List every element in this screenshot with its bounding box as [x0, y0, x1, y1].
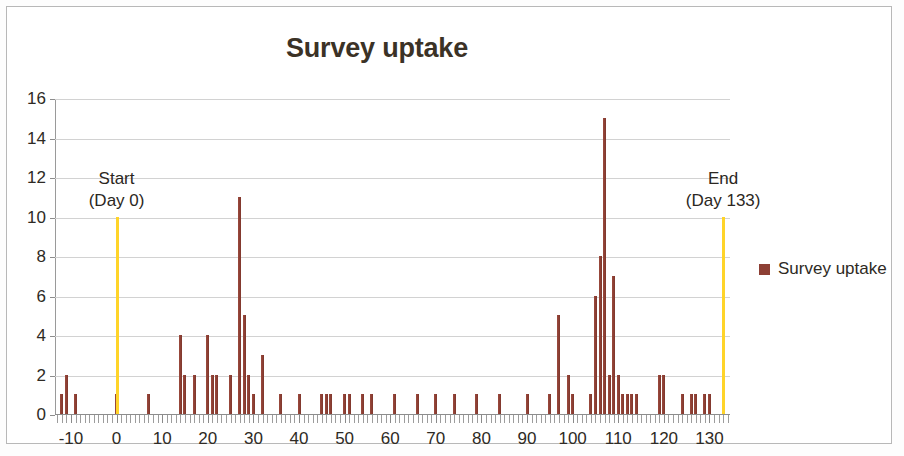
x-tick-mark-minor — [263, 415, 264, 423]
x-tick-mark-minor — [167, 415, 168, 423]
y-tick-label: 10 — [27, 208, 46, 228]
x-tick-mark-minor — [231, 415, 232, 423]
y-tick-label: 16 — [27, 89, 46, 109]
y-tick-mark — [50, 336, 55, 337]
x-tick-mark-major — [253, 415, 254, 423]
x-tick-mark-minor — [714, 415, 715, 423]
x-tick-mark-minor — [545, 415, 546, 423]
y-tick-label: 4 — [37, 326, 46, 346]
x-tick-mark-minor — [719, 415, 720, 423]
x-tick-mark-minor — [244, 415, 245, 423]
x-tick-mark-minor — [103, 415, 104, 423]
x-tick-mark-minor — [258, 415, 259, 423]
x-tick-mark-minor — [363, 415, 364, 423]
x-tick-mark-minor — [627, 415, 628, 423]
x-tick-mark-major — [709, 415, 710, 423]
x-tick-mark-minor — [532, 415, 533, 423]
bar — [179, 335, 182, 414]
x-tick-mark-minor — [659, 415, 660, 423]
bar — [708, 394, 711, 414]
x-tick-mark-minor — [614, 415, 615, 423]
x-tick-label: 50 — [335, 429, 354, 449]
bar — [612, 276, 615, 414]
x-tick-mark-minor — [107, 415, 108, 423]
bar — [694, 394, 697, 414]
x-tick-mark-minor — [568, 415, 569, 423]
x-tick-mark-major — [436, 415, 437, 423]
bar — [206, 335, 209, 414]
x-tick-mark-minor — [600, 415, 601, 423]
plot-area: 0246810121416-10010203040506070809010011… — [55, 99, 730, 415]
x-tick-mark-minor — [554, 415, 555, 423]
x-tick-mark-minor — [121, 415, 122, 423]
x-tick-mark-minor — [290, 415, 291, 423]
x-tick-mark-minor — [176, 415, 177, 423]
x-tick-mark-minor — [80, 415, 81, 423]
x-tick-mark-minor — [408, 415, 409, 423]
x-tick-mark-minor — [139, 415, 140, 423]
x-tick-mark-minor — [322, 415, 323, 423]
bar — [658, 375, 661, 415]
x-tick-mark-minor — [632, 415, 633, 423]
bar — [594, 296, 597, 415]
bar — [475, 394, 478, 414]
x-tick-mark-minor — [112, 415, 113, 423]
x-tick-mark-major — [664, 415, 665, 423]
x-tick-mark-minor — [203, 415, 204, 423]
x-tick-mark-minor — [413, 415, 414, 423]
x-tick-label: 10 — [153, 429, 172, 449]
x-tick-label: 0 — [112, 429, 121, 449]
chart-frame: Survey uptake 0246810121416-100102030405… — [6, 6, 892, 444]
bar — [329, 394, 332, 414]
bar — [243, 315, 246, 414]
bar — [193, 375, 196, 415]
x-tick-mark-minor — [76, 415, 77, 423]
y-tick-mark — [50, 415, 55, 416]
x-tick-mark-minor — [180, 415, 181, 423]
x-tick-mark-minor — [66, 415, 67, 423]
x-tick-mark-minor — [477, 415, 478, 423]
bar — [252, 394, 255, 414]
x-tick-mark-minor — [381, 415, 382, 423]
x-tick-mark-minor — [308, 415, 309, 423]
start-marker-line — [116, 217, 119, 415]
x-tick-mark-minor — [158, 415, 159, 423]
x-tick-mark-minor — [171, 415, 172, 423]
y-tick-mark — [50, 297, 55, 298]
bar — [320, 394, 323, 414]
x-tick-mark-minor — [85, 415, 86, 423]
x-tick-mark-minor — [148, 415, 149, 423]
bar — [183, 375, 186, 415]
x-tick-mark-minor — [89, 415, 90, 423]
bar — [298, 394, 301, 414]
end-marker-line — [722, 217, 725, 415]
x-tick-mark-major — [390, 415, 391, 423]
x-tick-mark-minor — [399, 415, 400, 423]
x-tick-mark-minor — [354, 415, 355, 423]
bar — [599, 256, 602, 414]
x-tick-mark-major — [299, 415, 300, 423]
bar — [361, 394, 364, 414]
gridline — [55, 178, 730, 179]
x-tick-label: 80 — [472, 429, 491, 449]
x-tick-mark-major — [527, 415, 528, 423]
x-tick-mark-major — [71, 415, 72, 423]
gridline — [55, 297, 730, 298]
x-tick-mark-minor — [705, 415, 706, 423]
bar — [621, 394, 624, 414]
x-tick-mark-minor — [212, 415, 213, 423]
y-tick-label: 2 — [37, 366, 46, 386]
x-tick-mark-minor — [240, 415, 241, 423]
x-tick-mark-minor — [687, 415, 688, 423]
bar — [498, 394, 501, 414]
x-tick-mark-major — [162, 415, 163, 423]
x-tick-mark-minor — [646, 415, 647, 423]
bar — [571, 394, 574, 414]
x-tick-mark-minor — [668, 415, 669, 423]
x-tick-mark-major — [573, 415, 574, 423]
x-tick-mark-minor — [450, 415, 451, 423]
x-tick-label: 40 — [290, 429, 309, 449]
bar — [617, 375, 620, 415]
start-marker-label-line2: (Day 0) — [89, 190, 145, 212]
x-tick-mark-minor — [367, 415, 368, 423]
